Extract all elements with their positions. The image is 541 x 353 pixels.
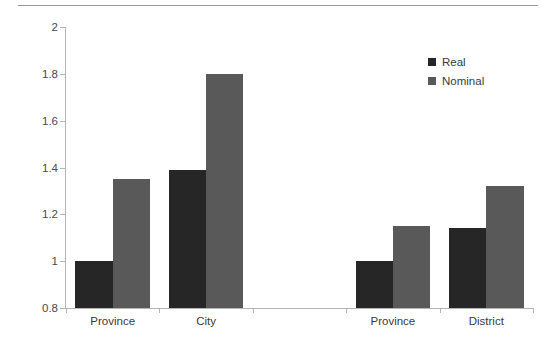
legend-item-nominal[interactable]: Nominal [428, 71, 484, 90]
y-tick-mark [60, 308, 65, 309]
bar-real-province-3 [356, 261, 393, 308]
legend-item-real[interactable]: Real [428, 52, 484, 71]
y-tick-label: 1.4 [6, 162, 58, 174]
legend-swatch-nominal-icon [428, 77, 436, 85]
y-tick-mark [60, 121, 65, 122]
top-divider [18, 5, 538, 6]
bar-real-city-1 [169, 170, 206, 308]
y-tick-label: 1.8 [6, 68, 58, 80]
legend-label-nominal: Nominal [442, 75, 484, 87]
bar-real-province-0 [75, 261, 112, 308]
x-tick-mark [533, 308, 534, 313]
x-tick-mark [346, 308, 347, 313]
legend-swatch-real-icon [428, 58, 436, 66]
y-tick-mark [60, 74, 65, 75]
y-tick-label: 1.6 [6, 115, 58, 127]
x-tick-label: District [469, 315, 504, 327]
bar-real-district-4 [449, 228, 486, 308]
y-tick-label: 1.2 [6, 208, 58, 220]
x-tick-label: City [196, 315, 216, 327]
x-tick-mark [66, 308, 67, 313]
y-tick-label: 1 [6, 255, 58, 267]
y-tick-label: 2 [6, 21, 58, 33]
x-tick-mark [440, 308, 441, 313]
y-tick-mark [60, 168, 65, 169]
y-tick-mark [60, 214, 65, 215]
x-axis-line [66, 308, 533, 309]
chart-page: 21.81.61.41.210.8 ProvinceCityProvinceDi… [0, 0, 541, 353]
bar-nominal-province-3 [393, 226, 430, 308]
x-tick-mark [253, 308, 254, 313]
bar-nominal-city-1 [206, 74, 243, 308]
bar-nominal-province-0 [113, 179, 150, 308]
x-tick-label: Province [90, 315, 135, 327]
y-tick-mark [60, 261, 65, 262]
chart-legend: Real Nominal [428, 52, 484, 90]
y-tick-label: 0.8 [6, 302, 58, 314]
bar-nominal-district-4 [486, 186, 523, 308]
y-tick-mark [60, 27, 65, 28]
x-tick-mark [159, 308, 160, 313]
legend-label-real: Real [442, 56, 466, 68]
x-tick-label: Province [371, 315, 416, 327]
